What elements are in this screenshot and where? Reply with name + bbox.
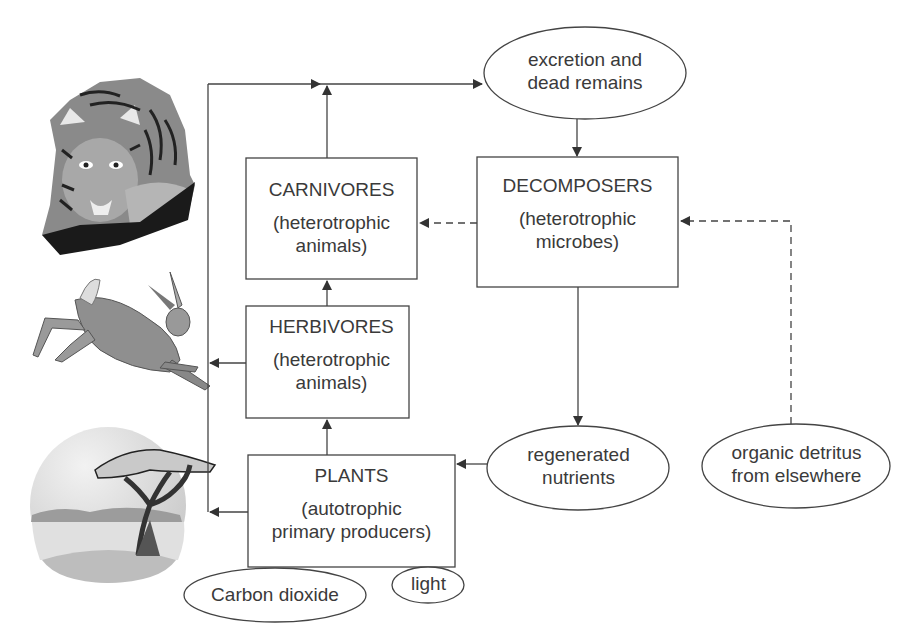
carnivores-title: CARNIVORES (246, 178, 417, 201)
herbivores-sub2: animals) (250, 371, 413, 394)
carnivores-sub2: animals) (246, 234, 417, 257)
herbivores-label: HERBIVORES (heterotrophic animals) (250, 315, 413, 395)
decomposers-label: DECOMPOSERS (heterotrophic microbes) (477, 174, 678, 254)
detritus-label: organic detritus from elsewhere (702, 441, 891, 487)
decomposers-sub2: microbes) (477, 230, 678, 253)
detritus-line1: organic detritus (702, 441, 891, 464)
detritus-line2: from elsewhere (702, 464, 891, 487)
acacia-tree-landscape-illustration (30, 427, 215, 583)
plants-title: PLANTS (248, 464, 455, 487)
carnivores-label: CARNIVORES (heterotrophic animals) (246, 178, 417, 258)
hare-illustration (33, 272, 210, 390)
tiger-illustration (42, 78, 195, 255)
co2-line1: Carbon dioxide (184, 583, 366, 606)
co2-label: Carbon dioxide (184, 583, 366, 606)
decomposers-title: DECOMPOSERS (477, 174, 678, 197)
decomposers-sub1: (heterotrophic (477, 207, 678, 230)
light-label: light (392, 572, 465, 595)
plants-label: PLANTS (autotrophic primary producers) (248, 464, 455, 544)
food-web-diagram (0, 0, 913, 642)
regenerated-line2: nutrients (487, 466, 670, 489)
regenerated-label: regenerated nutrients (487, 443, 670, 489)
plants-sub1: (autotrophic (248, 497, 455, 520)
excretion-label: excretion and dead remains (484, 48, 686, 94)
herbivores-sub1: (heterotrophic (250, 348, 413, 371)
carnivores-sub1: (heterotrophic (246, 211, 417, 234)
excretion-line2: dead remains (484, 71, 686, 94)
light-line1: light (392, 572, 465, 595)
excretion-line1: excretion and (484, 48, 686, 71)
plants-sub2: primary producers) (248, 520, 455, 543)
regenerated-line1: regenerated (487, 443, 670, 466)
herbivores-title: HERBIVORES (250, 315, 413, 338)
